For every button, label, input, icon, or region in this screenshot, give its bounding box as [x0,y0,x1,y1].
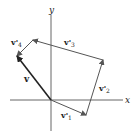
label-v4-prime: v'4 [10,37,22,48]
vector-v1-prime [51,100,86,115]
label-v3-prime: v'3 [63,37,75,48]
label-v2-prime: v'2 [98,83,110,94]
y-axis-label: y [48,5,55,15]
x-axis-label: x [125,95,130,105]
diagram-canvas: x y v v'1 v'2 v'3 v'4 [0,0,138,136]
vector-v [17,56,51,100]
label-v: v [23,74,30,84]
vector-diagram: x y v v'1 v'2 v'3 v'4 [0,0,138,136]
label-v1-prime: v'1 [60,110,72,121]
